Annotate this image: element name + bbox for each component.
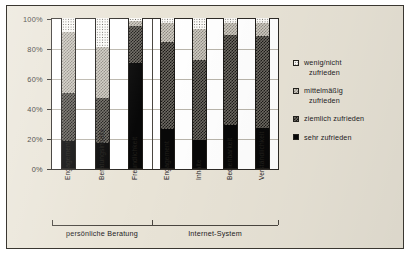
y-axis-tick-label: 60% <box>9 75 43 84</box>
group-label: persönliche Beratung <box>52 229 152 238</box>
legend-label: sehr zufrieden <box>304 133 352 142</box>
group-label: Internet-System <box>152 229 278 238</box>
legend-item: sehr zufrieden <box>293 133 397 143</box>
legend-label: ziemlich zufrieden <box>304 114 364 123</box>
legend-label: mittelmäßig <box>304 86 343 95</box>
legend-label-line2: zufrieden <box>304 68 397 78</box>
bar-segment <box>256 23 269 37</box>
bar-segment <box>256 36 269 128</box>
group-tick <box>278 220 279 225</box>
chart-figure: 0%20%40%60%80%100% EngagementBeratungsin… <box>0 0 412 257</box>
legend-item: mittelmäßigzufrieden <box>293 86 397 105</box>
y-axis-tick-label: 80% <box>9 45 43 54</box>
legend: wenig/nichtzufriedenmittelmäßigzufrieden… <box>293 58 397 151</box>
bar-segment <box>96 47 109 98</box>
legend-label-line2: zufrieden <box>304 96 397 106</box>
x-axis-tick-label: Freundlichkeit <box>131 137 138 180</box>
bar-segment <box>256 18 269 23</box>
x-axis-tick-label: Engagement <box>163 141 170 180</box>
x-axis-tick-label: Bedienbarkeit <box>226 138 233 180</box>
y-axis-tick-label: 40% <box>9 105 43 114</box>
bar-segment <box>62 93 75 141</box>
bar-segment <box>224 23 237 35</box>
bar-segment <box>161 42 174 129</box>
legend-swatch <box>293 60 299 66</box>
group-rule <box>52 225 152 226</box>
group-divider <box>152 19 153 169</box>
x-axis-tick-label: Engagement <box>64 141 71 180</box>
x-axis-tick-label: Inhalte <box>195 159 202 180</box>
x-axis-tick-label: Verständlichkeit <box>258 131 265 180</box>
y-axis-tick-label: 20% <box>9 135 43 144</box>
group-tick <box>152 220 153 225</box>
bar-segment <box>161 23 174 43</box>
legend-swatch <box>293 116 299 122</box>
stacked-bar <box>192 19 207 169</box>
x-axis-tick-label: Beratungsinhalte <box>98 128 105 180</box>
bar-segment <box>62 18 75 32</box>
legend-swatch <box>293 88 299 94</box>
legend-item: wenig/nichtzufrieden <box>293 58 397 77</box>
group-tick <box>52 220 53 225</box>
bar-segment <box>193 29 206 61</box>
bar-segment <box>224 35 237 125</box>
bar-segment <box>96 18 109 47</box>
bar-segment <box>193 18 206 29</box>
scanned-page: 0%20%40%60%80%100% EngagementBeratungsin… <box>6 5 404 249</box>
bar-segment <box>224 18 237 23</box>
y-axis-tick-label: 100% <box>9 15 43 24</box>
bar-segment <box>62 32 75 94</box>
bar-segment <box>193 60 206 140</box>
bar-segment <box>161 18 174 23</box>
group-rule <box>152 225 278 226</box>
bar-segment <box>129 18 142 21</box>
legend-swatch <box>293 134 299 140</box>
bar-segment <box>129 26 142 64</box>
legend-label: wenig/nicht <box>304 58 342 67</box>
bar-segment <box>129 21 142 26</box>
y-axis-tick-label: 0% <box>9 165 43 174</box>
legend-item: ziemlich zufrieden <box>293 114 397 124</box>
